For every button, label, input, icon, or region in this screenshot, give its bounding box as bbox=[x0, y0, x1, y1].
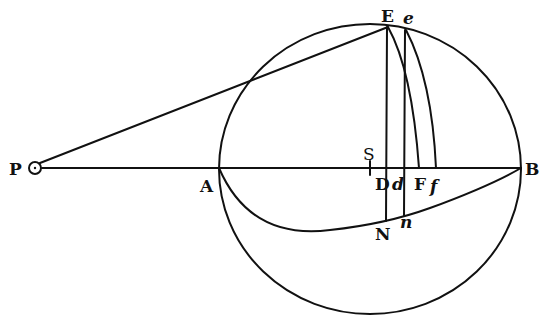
label-B: B bbox=[525, 159, 539, 179]
label-e: e bbox=[403, 8, 414, 28]
label-E: E bbox=[381, 6, 394, 26]
label-n: n bbox=[400, 212, 412, 232]
point-P-dot bbox=[34, 167, 36, 169]
label-D: D bbox=[375, 174, 390, 194]
label-d: d bbox=[392, 174, 404, 194]
diagram-canvas: P A S D d F f B E e N n bbox=[0, 0, 557, 324]
label-S: S bbox=[363, 144, 375, 164]
label-N: N bbox=[375, 224, 391, 244]
label-f: f bbox=[429, 176, 440, 196]
label-F: F bbox=[414, 174, 426, 194]
line-PE bbox=[40, 27, 388, 163]
label-A: A bbox=[199, 176, 214, 196]
line-edn bbox=[404, 30, 405, 216]
label-P: P bbox=[9, 159, 22, 179]
curve-ANnB bbox=[219, 168, 521, 231]
